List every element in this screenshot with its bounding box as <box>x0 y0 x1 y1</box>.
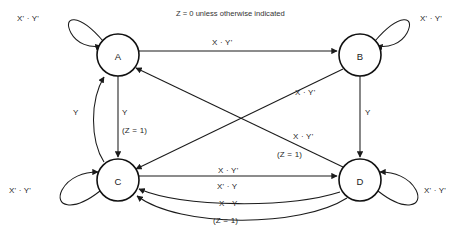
edge-c-to-a-label: Y <box>73 108 79 118</box>
edge-b-to-c-label: X · Y' <box>295 88 315 98</box>
self-loop-a-label: X' · Y' <box>17 14 39 24</box>
self-loop-a <box>68 20 103 47</box>
state-diagram: A B C D Z = 0 unless otherwise indicated… <box>0 0 475 251</box>
edge-d-to-c-2-output: (Z = 1) <box>213 216 238 226</box>
edge-b-to-c <box>136 69 343 169</box>
edge-d-to-c-2 <box>137 196 347 220</box>
self-loop-c <box>60 172 100 205</box>
edge-a-to-c-output: (Z = 1) <box>122 126 147 136</box>
self-loop-b <box>375 20 410 47</box>
state-node-a-label: A <box>115 51 122 62</box>
state-node-b-label: B <box>357 51 363 62</box>
edge-b-to-d-label: Y <box>365 108 371 118</box>
edge-d-to-a-label: X · Y' <box>293 132 313 142</box>
self-loop-c-label: X' · Y' <box>9 186 31 196</box>
self-loop-d <box>378 172 418 205</box>
edge-c-to-a <box>94 77 105 162</box>
edge-c-to-d-label: X · Y' <box>218 166 238 176</box>
diagram-note: Z = 0 unless otherwise indicated <box>176 9 285 18</box>
state-node-d-label: D <box>357 176 364 187</box>
edge-d-to-c-2-label: X · Y <box>219 199 238 209</box>
edge-d-to-c-1 <box>139 189 340 204</box>
state-diagram-canvas: A B C D <box>0 0 475 251</box>
edge-d-to-a <box>136 68 343 167</box>
edge-d-to-a-output: (Z = 1) <box>277 150 302 160</box>
state-node-c-label: C <box>115 176 122 187</box>
edge-a-to-b-label: X · Y' <box>212 38 232 48</box>
self-loop-d-label: X' · Y' <box>424 186 446 196</box>
self-loop-b-label: X' · Y' <box>420 14 442 24</box>
edge-d-to-c-1-label: X' · Y <box>217 182 237 192</box>
edge-a-to-c-label: Y <box>122 108 128 118</box>
